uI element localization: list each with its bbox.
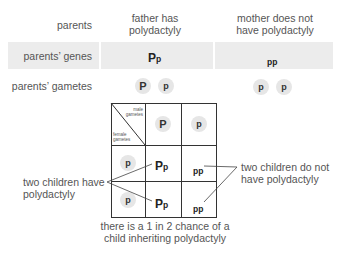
probability-line2: child inheriting polydactyly xyxy=(95,232,235,244)
annotation-no-polydactyly: two children do not have polydactyly xyxy=(241,161,329,185)
annotation-right-line1: two children do not xyxy=(241,161,329,173)
pointer-line xyxy=(107,182,152,201)
annotation-lines xyxy=(0,0,342,257)
pointer-line xyxy=(107,164,152,182)
annotation-left-line2: polydactyly xyxy=(23,188,105,200)
annotation-left-line1: two children have xyxy=(23,176,105,188)
corner-diagonal xyxy=(111,103,145,145)
pointer-line xyxy=(204,166,237,167)
probability-line1: there is a 1 in 2 chance of a xyxy=(95,220,235,232)
annotation-right-line2: have polydactyly xyxy=(241,173,329,185)
pointer-line xyxy=(204,167,237,202)
probability-note: there is a 1 in 2 chance of a child inhe… xyxy=(95,220,235,244)
annotation-have-polydactyly: two children have polydactyly xyxy=(23,176,105,200)
